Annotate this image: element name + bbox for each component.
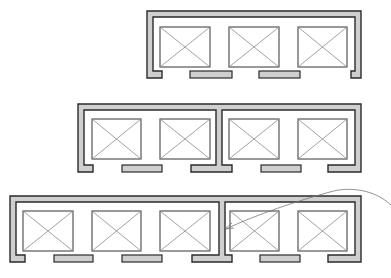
elevator-cab (160, 119, 210, 159)
door-header (259, 71, 300, 78)
bank-three-plus-two (10, 196, 361, 262)
elevator-cab (298, 119, 347, 159)
elevator-cab (229, 119, 279, 159)
elevator-cab (298, 27, 347, 67)
door-header (122, 255, 162, 262)
elevator-cab (92, 119, 141, 159)
elevator-cab (160, 211, 210, 251)
door-header (260, 255, 300, 262)
elevator-cab (23, 211, 73, 251)
elevator-cab (229, 27, 279, 67)
bank-three-car (147, 11, 361, 78)
elevator-plan-diagram (0, 0, 391, 278)
door-header (190, 71, 232, 78)
door-header (54, 255, 93, 262)
door-header (261, 165, 301, 172)
elevator-cab (92, 211, 141, 251)
door-header (122, 165, 162, 172)
bank-two-plus-two (78, 104, 361, 172)
elevator-cab (160, 27, 210, 67)
elevator-cab (298, 211, 347, 251)
